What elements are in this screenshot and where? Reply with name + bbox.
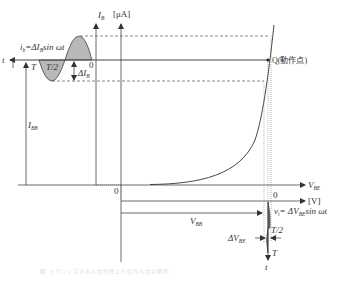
time-label-left: t [2,55,5,65]
vi-formula: vi= ΔVBEsin ωt [274,206,327,217]
transistor-input-characteristic-diagram: IB [μA] ib=ΔIBsin ωt t T T/2 ΔIB 0 IBB Q… [0,0,340,281]
vbe-axis-label: VBE [308,180,321,191]
vbb-label: VBB [190,216,203,227]
figure-caption: 図 トランジスタの入力特性と小信号入力の関係 [40,267,300,274]
ib-formula: ib=ΔIBsin ωt [20,42,65,53]
ibb-label: IBB [27,120,38,131]
q-point-marker [266,58,269,61]
period-label-left: T [31,62,37,72]
half-period-label-bottom: T/2 [271,225,284,235]
vi-origin-label: 0 [273,190,278,200]
main-origin-label: 0 [114,186,119,196]
ib-axis-unit: [μA] [113,9,130,19]
ib-axis-label: IB [97,10,105,21]
half-period-label-left: T/2 [46,62,59,72]
sine-origin-label: 0 [89,60,94,70]
characteristic-curve [150,25,274,185]
v-axis-unit: [V] [308,196,321,206]
q-point-label: Q(動作点) [272,55,307,65]
period-label-bottom: T [272,248,278,258]
delta-vbe-label: ΔVBE [227,233,246,244]
